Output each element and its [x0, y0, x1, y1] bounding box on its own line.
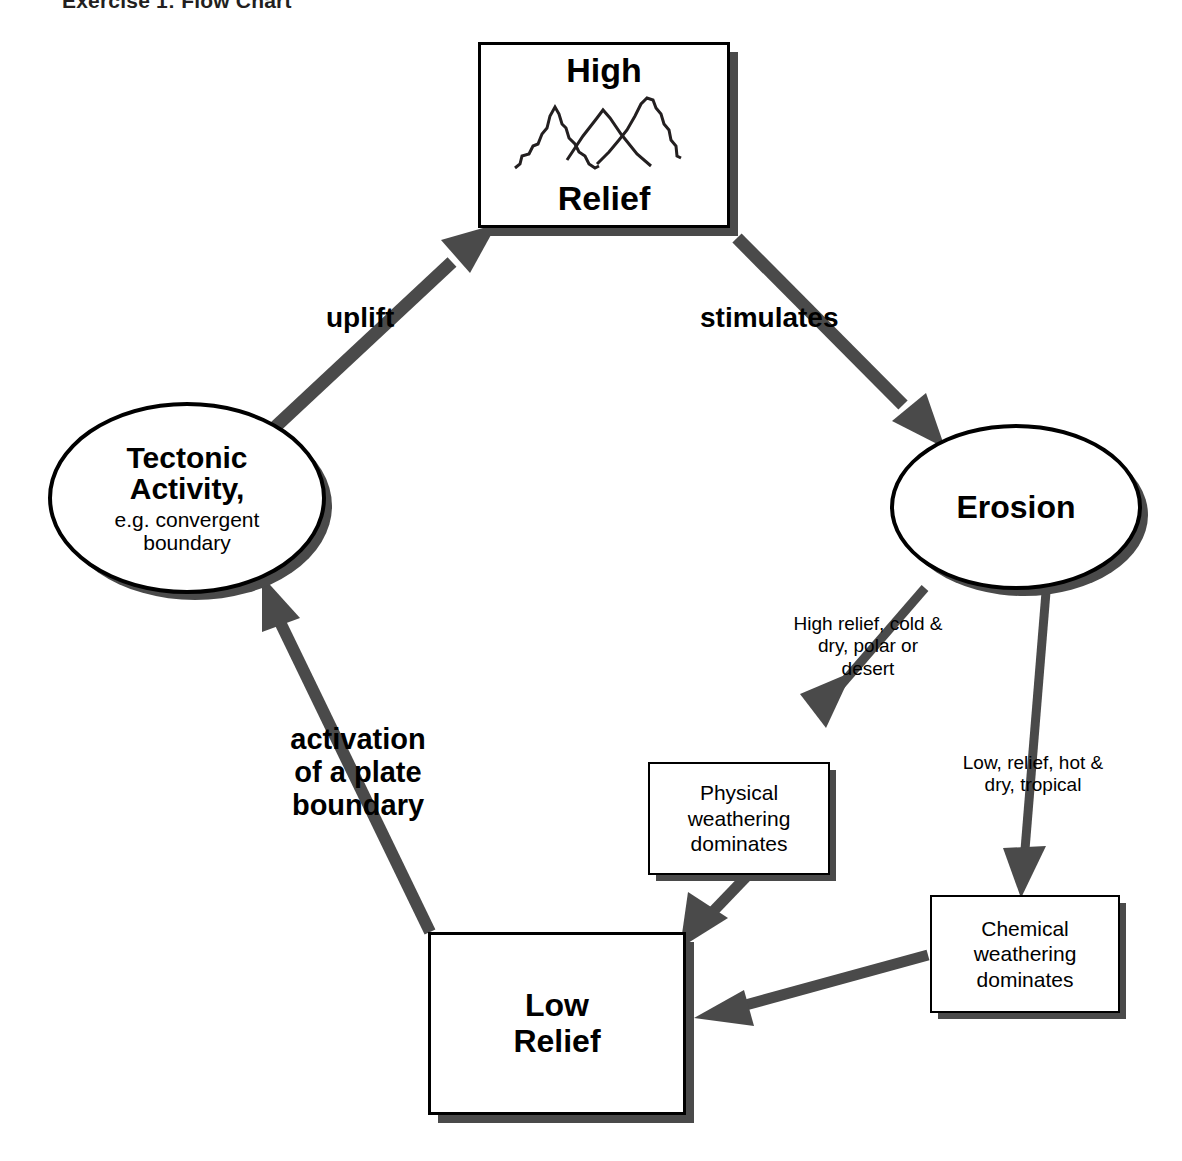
- node-tectonic-activity-sub: e.g. convergent boundary: [115, 508, 260, 554]
- arrow-stimulates: [737, 238, 945, 448]
- edge-label-activation: activation of a plate boundary: [248, 723, 468, 822]
- arrow-chemical-to-low-relief: [694, 955, 928, 1026]
- node-high-relief-line1: High: [566, 53, 642, 87]
- node-erosion-label: Erosion: [956, 489, 1075, 526]
- arrow-physical-to-low-relief: [680, 875, 748, 948]
- node-chemical-weathering[interactable]: Chemical weathering dominates: [930, 895, 1120, 1013]
- arrow-erosion-to-chemical: [1003, 592, 1046, 898]
- node-erosion[interactable]: Erosion: [890, 424, 1142, 590]
- node-tectonic-activity-main: Tectonic Activity,: [126, 442, 247, 506]
- node-chemical-weathering-label: Chemical weathering dominates: [974, 916, 1077, 993]
- node-low-relief-label: Low Relief: [513, 988, 600, 1058]
- node-low-relief[interactable]: Low Relief: [428, 932, 686, 1115]
- edge-label-stimulates: stimulates: [700, 302, 839, 334]
- node-physical-weathering-label: Physical weathering dominates: [688, 780, 791, 857]
- edge-label-uplift: uplift: [326, 302, 394, 334]
- edge-label-low-relief-hot-dry: Low, relief, hot & dry, tropical: [938, 752, 1128, 797]
- node-high-relief-line2: Relief: [558, 181, 651, 215]
- node-physical-weathering[interactable]: Physical weathering dominates: [648, 762, 830, 875]
- mountain-range-icon: [509, 94, 699, 174]
- node-high-relief[interactable]: High Relief: [478, 42, 730, 228]
- edge-label-high-relief-cold-dry: High relief, cold & dry, polar or desert: [770, 613, 966, 680]
- node-tectonic-activity[interactable]: Tectonic Activity, e.g. convergent bound…: [48, 402, 326, 594]
